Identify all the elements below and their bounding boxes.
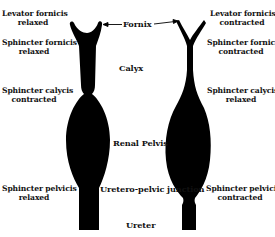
- label-left-levator-fornicis: Levator fornicis relaxed: [2, 10, 64, 27]
- label-left-sphincter-fornicis: Sphincter fornicis relaxed: [2, 39, 66, 56]
- label-left-sphincter-calycis: Sphincter calycis contracted: [2, 87, 66, 104]
- label-renal-pelvis: Renal Pelvis: [113, 139, 168, 148]
- label-left-sphincter-pelvicis: Sphincter pelvicis relaxed: [2, 185, 66, 202]
- label-fornix: Fornix: [123, 20, 151, 29]
- label-state: relaxed: [207, 96, 275, 105]
- label-calyx: Calyx: [119, 64, 143, 73]
- label-state: relaxed: [2, 48, 66, 57]
- label-state: contracted: [2, 96, 66, 105]
- left-collecting-system-shape: [66, 21, 110, 230]
- label-state: relaxed: [2, 19, 64, 28]
- label-right-sphincter-calycis: Sphincter calycis relaxed: [207, 87, 275, 104]
- label-state: contracted: [210, 19, 274, 28]
- label-state: relaxed: [2, 194, 66, 203]
- label-state: contracted: [207, 48, 275, 57]
- label-ureter: Ureter: [126, 221, 155, 230]
- label-right-levator-fornicis: Levator fornicis contracted: [210, 10, 274, 27]
- label-uretero-pelvic-junction: Uretero-pelvic junction: [100, 185, 204, 194]
- right-collecting-system-shape: [165, 20, 210, 230]
- label-state: contracted: [206, 194, 274, 203]
- label-right-sphincter-pelvicis: Sphincter pelvicis contracted: [206, 185, 274, 202]
- label-right-sphincter-fornicis: Sphincter fornicis contracted: [207, 39, 275, 56]
